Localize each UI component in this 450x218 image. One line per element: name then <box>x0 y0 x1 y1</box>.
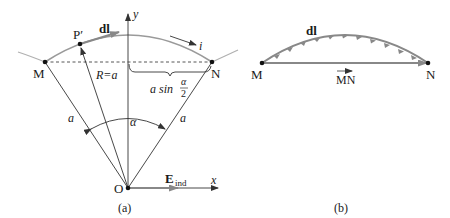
label-p-prime: P′ <box>73 27 83 42</box>
figure-b: M N dl MN (b) <box>251 23 436 215</box>
caption-a: (a) <box>118 201 131 215</box>
arc-mn <box>45 35 212 62</box>
circle-extension-right <box>212 50 238 62</box>
chord-text: MN <box>336 73 356 87</box>
label-radius: R=a <box>95 68 117 82</box>
dl-arrowheads <box>274 35 417 60</box>
label-x-axis: x <box>210 173 217 187</box>
half-chord-numerator: α <box>181 76 187 87</box>
e-ind-main: E <box>165 171 174 186</box>
label-n: N <box>211 66 221 81</box>
caption-b: (b) <box>334 201 348 215</box>
label-o: O <box>114 181 123 196</box>
point-m-b <box>260 61 265 66</box>
figure-a: M N P′ O dl i R=a a a α y x a sin α 2 E … <box>18 7 238 215</box>
radius-on <box>128 62 212 188</box>
label-side-left: a <box>68 111 74 125</box>
point-m <box>43 60 48 65</box>
half-chord-denominator: 2 <box>181 88 186 99</box>
label-n-b: N <box>426 67 436 82</box>
label-half-chord: a sin α 2 <box>150 76 188 99</box>
label-m-b: M <box>251 67 263 82</box>
diagram-canvas: M N P′ O dl i R=a a a α y x a sin α 2 E … <box>0 0 450 218</box>
circle-extension-left <box>18 52 45 62</box>
svg-text:a sin: a sin <box>150 82 173 96</box>
label-side-right: a <box>180 111 186 125</box>
label-current: i <box>199 39 202 53</box>
arc-dl-path <box>262 35 428 63</box>
label-angle: α <box>130 115 137 129</box>
point-n-b <box>426 61 431 66</box>
label-y-axis: y <box>132 7 139 21</box>
label-e-ind: E ind <box>165 171 187 188</box>
label-m: M <box>33 66 45 81</box>
e-ind-subscript: ind <box>175 178 187 188</box>
label-dl-b: dl <box>306 23 317 38</box>
half-chord-prefix: a sin <box>150 82 173 96</box>
label-chord-mn: MN <box>336 71 356 87</box>
point-o <box>126 186 131 191</box>
point-n <box>210 60 215 65</box>
label-dl: dl <box>99 21 110 36</box>
half-chord-brace <box>129 64 211 76</box>
point-p-prime <box>78 42 83 47</box>
